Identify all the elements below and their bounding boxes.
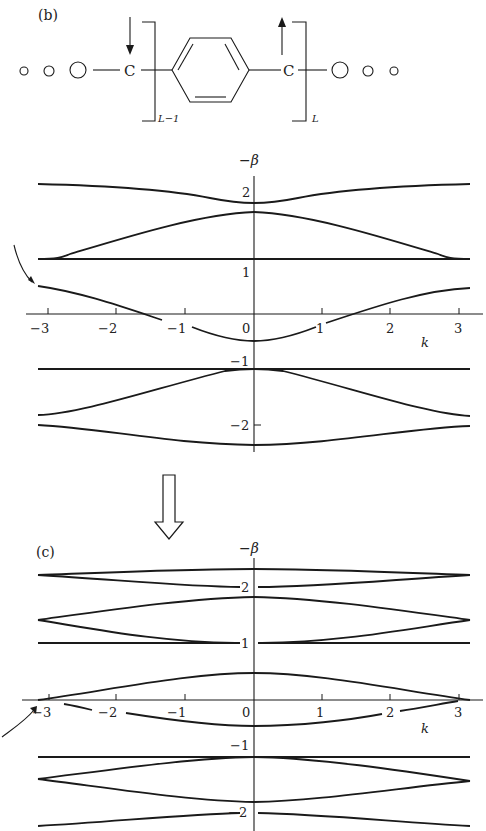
atom-small-icon [390, 67, 398, 75]
y-tick: 1 [242, 265, 250, 280]
molecule-diagram: C L−1 C L [20, 17, 398, 124]
band-structure-figure: (b) C L−1 C L −β [0, 0, 486, 831]
x-tick: −2 [98, 321, 117, 336]
x-tick: 2 [386, 321, 394, 336]
y-axis-label: −β [239, 540, 259, 556]
x-tick: −2 [98, 705, 117, 720]
x-tick: −1 [167, 321, 186, 336]
y-tick: −1 [230, 738, 249, 753]
y-tick: 1 [241, 636, 249, 651]
atom-large-icon [332, 62, 348, 78]
y-tick: −1 [230, 354, 249, 369]
panel-c-label: (c) [36, 544, 55, 560]
atom-large-icon [70, 62, 86, 78]
x-tick: 1 [316, 705, 324, 720]
y-tick: 2 [242, 185, 250, 200]
x-tick: 1 [316, 321, 324, 336]
x-axis-label: k [421, 721, 429, 736]
y-tick: −2 [230, 418, 249, 433]
x-tick: 2 [386, 705, 394, 720]
bracket-sub-right: L [311, 113, 319, 124]
carbon-left: C [124, 62, 135, 80]
curved-arrow-icon [2, 710, 34, 737]
x-tick: 3 [454, 321, 462, 336]
benzene-ring-icon [172, 38, 249, 102]
chart-c: −β k −3 −2 −1 0 1 2 3 2 1 −1 −2 [2, 540, 483, 831]
bracket-sub-left: L−1 [157, 113, 179, 124]
hollow-down-arrow-icon [155, 475, 183, 539]
atom-small-icon [363, 66, 373, 76]
x-tick: 0 [242, 321, 250, 336]
panel-b-label: (b) [38, 7, 58, 23]
atom-small-icon [20, 67, 28, 75]
atom-small-icon [44, 66, 54, 76]
x-tick: −1 [167, 705, 186, 720]
y-tick: 2 [241, 580, 249, 595]
x-axis-label: k [421, 335, 429, 350]
x-tick: 3 [454, 705, 462, 720]
bracket-left [142, 22, 155, 121]
curved-arrow-icon [14, 245, 32, 282]
carbon-right: C [283, 62, 294, 80]
x-tick: −3 [30, 321, 49, 336]
x-tick: 0 [242, 705, 250, 720]
y-axis-label: −β [239, 152, 259, 168]
chart-b: −β k −3 −2 −1 0 1 2 3 2 1 −1 −2 [14, 152, 483, 452]
